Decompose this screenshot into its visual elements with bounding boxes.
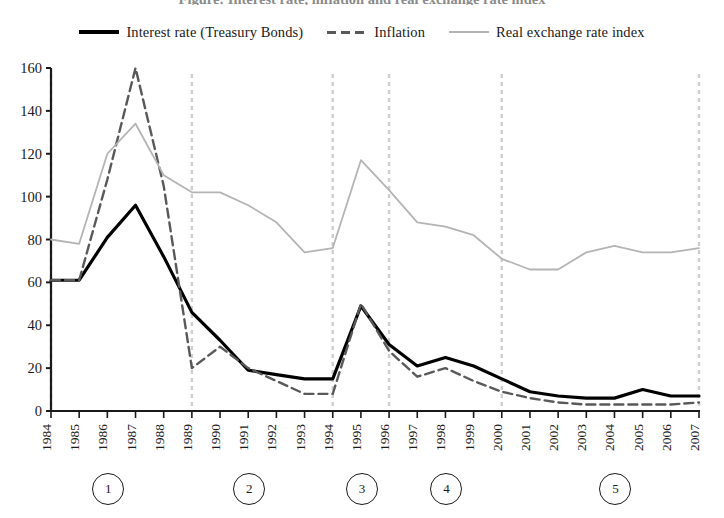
x-tick-label-1992: 1992 [264,424,279,451]
x-tick-label-1993: 1993 [293,424,308,451]
x-tick-label-1999: 1999 [462,424,477,451]
series-line-interest-rate-treasury-bonds [51,205,699,398]
x-tick-label-1985: 1985 [67,424,82,451]
x-tick-label-1997: 1997 [405,424,420,451]
series-line-inflation [51,68,699,405]
vertical-gridlines [51,74,699,411]
x-tick-label-2006: 2006 [659,424,674,451]
x-tick-label-2005: 2005 [631,424,646,451]
data-series-group [51,68,699,405]
x-tick-label-2002: 2002 [546,424,561,451]
x-tick-label-2004: 2004 [602,424,617,451]
x-tick-label-1988: 1988 [152,424,167,451]
x-tick-label-2000: 2000 [490,424,505,451]
x-tick-label-1991: 1991 [236,424,251,451]
y-tick-label-40: 40 [28,317,43,333]
y-tick-label-80: 80 [28,232,43,248]
x-tick-label-1995: 1995 [349,424,364,451]
chart-figure: Figure: Interest rate, inflation and rea… [0,0,724,518]
x-tick-label-1990: 1990 [208,424,223,451]
x-tick-label-2003: 2003 [574,424,589,451]
x-tick-label-1987: 1987 [124,424,139,451]
x-tick-label-1984: 1984 [39,424,54,451]
x-tick-label-1986: 1986 [95,424,110,451]
x-tick-label-2001: 2001 [518,424,533,451]
x-axis: 1984198519861987198819891990199119921993… [39,411,702,451]
plot-area: 020406080100120140160 198419851986198719… [0,0,724,518]
x-tick-label-1998: 1998 [433,424,448,451]
y-tick-label-160: 160 [20,60,42,76]
y-tick-label-100: 100 [20,189,42,205]
y-tick-label-20: 20 [28,360,43,376]
chart-canvas: 020406080100120140160 198419851986198719… [0,0,724,518]
series-line-real-exchange-rate-index [51,124,699,270]
x-tick-label-1989: 1989 [180,424,195,451]
x-tick-label-2007: 2007 [687,424,702,451]
y-tick-label-0: 0 [35,403,42,419]
y-tick-label-140: 140 [20,103,42,119]
x-tick-label-1996: 1996 [377,424,392,451]
y-tick-label-60: 60 [28,274,43,290]
y-axis: 020406080100120140160 [20,60,51,419]
y-tick-label-120: 120 [20,146,42,162]
x-tick-label-1994: 1994 [321,424,336,451]
